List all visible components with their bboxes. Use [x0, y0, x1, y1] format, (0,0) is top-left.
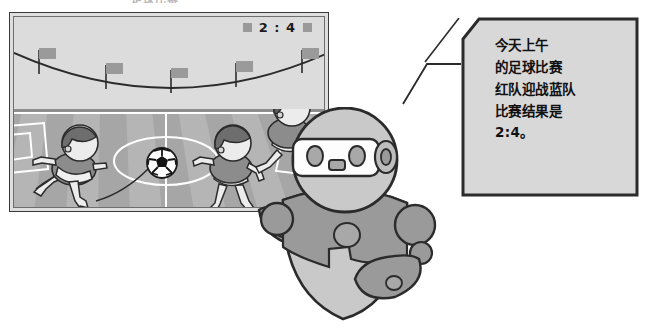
- cut-off-title: 足球比赛: [131, 0, 251, 3]
- robot-mouth: [329, 160, 345, 170]
- robot-speech-bubble: 今天上午 的足球比赛 红队迎战蓝队 比赛结果是 2:4。: [459, 17, 641, 197]
- stadium-stands: 2 : 4: [14, 17, 324, 109]
- scene-root: 足球比赛: [0, 0, 647, 330]
- speech-bubble-text: 今天上午 的足球比赛 红队迎战蓝队 比赛结果是 2:4。: [495, 35, 635, 144]
- scoreboard-right-marker: [303, 23, 312, 32]
- robot-eye-right: [349, 146, 365, 166]
- robot-right-shoulder: [395, 205, 435, 245]
- robot-left-shoulder: [261, 203, 293, 235]
- robot-chest-button: [334, 223, 360, 247]
- robot-eye-left: [307, 146, 323, 166]
- speech-line-4: 比赛结果是: [495, 101, 635, 123]
- scoreboard-left-marker: [243, 23, 252, 32]
- speech-line-3: 红队迎战蓝队: [495, 79, 635, 101]
- soccer-ball: [147, 148, 177, 178]
- speech-line-1: 今天上午: [495, 35, 635, 57]
- robot-head: [293, 108, 397, 212]
- scoreboard: 2 : 4: [243, 21, 312, 34]
- assistant-robot: [255, 107, 485, 330]
- robot-graphic: [255, 107, 485, 330]
- scoreboard-score: 2 : 4: [259, 21, 296, 34]
- speech-line-5: 2:4。: [495, 122, 635, 144]
- speech-line-2: 的足球比赛: [495, 57, 635, 79]
